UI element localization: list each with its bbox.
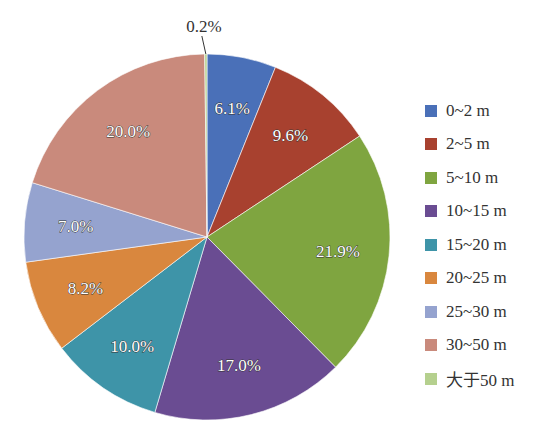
leader-line xyxy=(202,36,206,54)
legend-label: 大于50 m xyxy=(446,366,514,391)
legend-swatch xyxy=(425,105,437,117)
legend-item-30-50m: 30~50 m xyxy=(425,329,514,363)
slice-label: 20.0% xyxy=(106,122,150,141)
slice-label: 7.0% xyxy=(58,217,93,236)
slice-label: 8.2% xyxy=(68,279,103,298)
legend-item-10-15m: 10~15 m xyxy=(425,195,514,229)
pie-slices xyxy=(24,54,390,420)
legend-swatch xyxy=(425,138,437,150)
legend-label: 2~5 m xyxy=(446,134,490,154)
legend-item-2-5m: 2~5 m xyxy=(425,128,514,162)
legend-label: 10~15 m xyxy=(446,201,507,221)
legend-swatch xyxy=(425,172,437,184)
legend-item-20-25m: 20~25 m xyxy=(425,262,514,296)
slice-label: 6.1% xyxy=(214,99,249,118)
legend-swatch xyxy=(425,272,437,284)
slice-label: 9.6% xyxy=(273,126,308,145)
legend: 0~2 m 2~5 m 5~10 m 10~15 m 15~20 m 20~25… xyxy=(425,94,514,396)
legend-label: 0~2 m xyxy=(446,101,490,121)
legend-swatch xyxy=(425,239,437,251)
legend-label: 30~50 m xyxy=(446,335,507,355)
legend-item-5-10m: 5~10 m xyxy=(425,161,514,195)
legend-label: 20~25 m xyxy=(446,268,507,288)
legend-label: 15~20 m xyxy=(446,235,507,255)
legend-label: 5~10 m xyxy=(446,168,498,188)
slice-label: 17.0% xyxy=(217,356,261,375)
legend-item-25-30m: 25~30 m xyxy=(425,295,514,329)
legend-swatch xyxy=(425,339,437,351)
legend-swatch xyxy=(425,373,437,385)
slice-label: 21.9% xyxy=(316,242,360,261)
legend-swatch xyxy=(425,306,437,318)
legend-swatch xyxy=(425,205,437,217)
legend-item-0-2m: 0~2 m xyxy=(425,94,514,128)
slice-label: 10.0% xyxy=(110,337,154,356)
legend-item-15-20m: 15~20 m xyxy=(425,228,514,262)
legend-label: 25~30 m xyxy=(446,302,507,322)
slice-label: 0.2% xyxy=(186,17,221,36)
legend-item-over-50m: 大于50 m xyxy=(425,362,514,396)
